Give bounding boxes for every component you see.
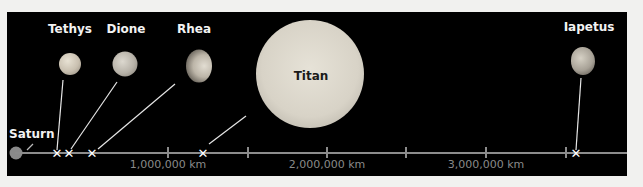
tick-label-3m: 3,000,000 km xyxy=(448,158,525,171)
moon-rhea-image xyxy=(186,50,212,83)
moon-tethys-image xyxy=(59,53,81,75)
diagram-panel: Tethys Dione Rhea Titan Iapetus Saturn 1… xyxy=(7,12,627,176)
moon-label-dione: Dione xyxy=(107,22,146,36)
axis-tick xyxy=(326,147,328,158)
axis-tick xyxy=(565,147,567,158)
moon-iapetus-image xyxy=(571,47,595,75)
marker-titan-icon: ✕ xyxy=(198,147,209,160)
moon-label-iapetus: Iapetus xyxy=(564,20,615,34)
leader-line-iapetus xyxy=(576,78,581,150)
marker-dione-icon: ✕ xyxy=(64,147,75,160)
axis-tick xyxy=(485,147,487,158)
tick-label-1m: 1,000,000 km xyxy=(130,158,207,171)
moon-dione-image xyxy=(113,52,138,77)
moon-label-rhea: Rhea xyxy=(177,22,211,36)
leader-line-titan xyxy=(209,116,246,144)
leader-line-saturn xyxy=(27,144,33,150)
axis-tick xyxy=(405,147,407,158)
distance-axis xyxy=(15,152,627,154)
marker-tethys-icon: ✕ xyxy=(52,147,63,160)
origin-label-saturn: Saturn xyxy=(9,127,54,141)
moon-label-tethys: Tethys xyxy=(48,22,92,36)
axis-tick xyxy=(247,147,249,158)
tick-label-2m: 2,000,000 km xyxy=(289,158,366,171)
moon-label-titan: Titan xyxy=(294,69,329,83)
axis-tick xyxy=(167,147,169,158)
leader-line-tethys xyxy=(57,80,63,150)
marker-rhea-icon: ✕ xyxy=(87,147,98,160)
marker-iapetus-icon: ✕ xyxy=(571,147,582,160)
